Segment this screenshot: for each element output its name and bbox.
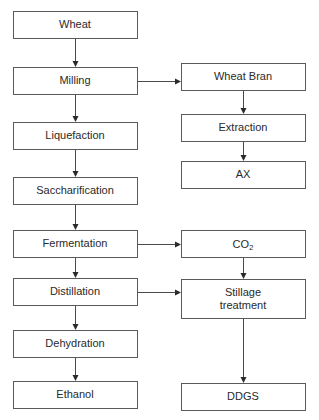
node-ax: AX bbox=[182, 162, 306, 189]
arrowhead-icon bbox=[241, 377, 247, 383]
arrowhead-icon bbox=[175, 79, 181, 85]
node-milling: Milling bbox=[14, 68, 138, 95]
edge-fermentation-to-distillation bbox=[73, 258, 79, 278]
edge-distillation-to-stillage-treatment bbox=[138, 290, 181, 296]
edge-distillation-to-dehydration bbox=[73, 306, 79, 330]
node-fermentation: Fermentation bbox=[14, 231, 138, 258]
edge-wheat-to-milling bbox=[73, 39, 79, 67]
node-ethanol: Ethanol bbox=[14, 382, 138, 409]
arrowhead-icon bbox=[73, 116, 79, 122]
node-label: Fermentation bbox=[43, 237, 108, 249]
arrowhead-icon bbox=[175, 290, 181, 296]
arrowhead-icon bbox=[241, 155, 247, 161]
arrowhead-icon bbox=[73, 272, 79, 278]
node-label: AX bbox=[236, 168, 251, 180]
node-wheat-bran: Wheat Bran bbox=[182, 64, 306, 91]
node-label: Milling bbox=[59, 74, 90, 86]
node-label: Ethanol bbox=[56, 388, 93, 400]
node-label: DDGS bbox=[227, 390, 259, 402]
node-label: Stillagetreatment bbox=[220, 286, 266, 311]
node-dehydration: Dehydration bbox=[14, 331, 138, 358]
node-label: Dehydration bbox=[45, 337, 104, 349]
edge-liquefaction-to-saccharification bbox=[73, 150, 79, 177]
node-saccharification: Saccharification bbox=[14, 178, 138, 205]
node-label: Saccharification bbox=[36, 184, 114, 196]
edge-saccharification-to-fermentation bbox=[73, 205, 79, 230]
arrowhead-icon bbox=[73, 61, 79, 67]
edge-milling-to-wheat-bran bbox=[138, 79, 181, 85]
arrowhead-icon bbox=[241, 273, 247, 279]
node-ddgs: DDGS bbox=[182, 384, 306, 411]
node-stillage-treatment: Stillagetreatment bbox=[182, 280, 306, 319]
node-label: Distillation bbox=[50, 285, 100, 297]
edge-stillage-treatment-to-ddgs bbox=[241, 319, 247, 383]
node-label: Extraction bbox=[219, 121, 268, 133]
node-extraction: Extraction bbox=[182, 115, 306, 142]
node-liquefaction: Liquefaction bbox=[14, 123, 138, 150]
node-co2: CO2 bbox=[182, 231, 306, 258]
arrowhead-icon bbox=[73, 375, 79, 381]
arrowhead-icon bbox=[73, 224, 79, 230]
node-label: Wheat Bran bbox=[214, 70, 272, 82]
arrowhead-icon bbox=[175, 242, 181, 248]
edge-fermentation-to-co2 bbox=[138, 242, 181, 248]
node-label: Liquefaction bbox=[45, 129, 104, 141]
node-label: Wheat bbox=[59, 18, 91, 30]
arrowhead-icon bbox=[73, 324, 79, 330]
edge-co2-to-stillage-treatment bbox=[241, 258, 247, 279]
edge-dehydration-to-ethanol bbox=[73, 358, 79, 381]
edge-wheat-bran-to-extraction bbox=[241, 91, 247, 114]
node-wheat: Wheat bbox=[14, 12, 138, 39]
node-distillation: Distillation bbox=[14, 279, 138, 306]
arrowhead-icon bbox=[73, 171, 79, 177]
process-flow-diagram: WheatMillingLiquefactionSaccharification… bbox=[0, 0, 319, 420]
arrowhead-icon bbox=[241, 108, 247, 114]
edge-extraction-to-ax bbox=[241, 142, 247, 161]
nodes-layer: WheatMillingLiquefactionSaccharification… bbox=[14, 12, 306, 411]
edge-milling-to-liquefaction bbox=[73, 95, 79, 122]
